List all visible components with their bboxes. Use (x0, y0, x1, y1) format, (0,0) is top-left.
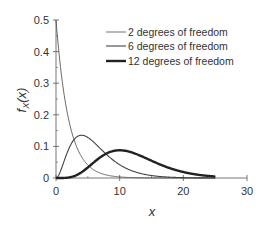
curve-6dof (56, 135, 215, 178)
x-axis-label: x (148, 204, 156, 219)
y-tick-label: 0.2 (34, 109, 49, 121)
y-label-arg: (x) (14, 88, 29, 103)
legend-label-2dof: 2 degrees of freedom (128, 26, 228, 38)
legend: 2 degrees of freedom 6 degrees of freedo… (106, 26, 234, 67)
svg-text:fX(x): fX(x) (14, 88, 31, 113)
legend-label-6dof: 6 degrees of freedom (128, 40, 228, 52)
y-ticks: 00.10.20.30.40.5 (34, 14, 59, 184)
x-tick-label: 20 (177, 185, 189, 197)
legend-label-12dof: 12 degrees of freedom (128, 55, 234, 67)
x-tick-label: 0 (53, 185, 59, 197)
y-tick-label: 0.3 (34, 77, 49, 89)
x-tick-label: 10 (114, 185, 126, 197)
y-tick-label: 0.4 (34, 46, 49, 58)
y-tick-label: 0.1 (34, 140, 49, 152)
chi-square-chart: 0102030 00.10.20.30.40.5 2 degrees of fr… (0, 0, 263, 233)
y-tick-label: 0 (43, 172, 49, 184)
x-tick-label: 30 (241, 185, 253, 197)
y-axis-label: fX(x) (14, 88, 31, 113)
y-tick-label: 0.5 (34, 14, 49, 26)
